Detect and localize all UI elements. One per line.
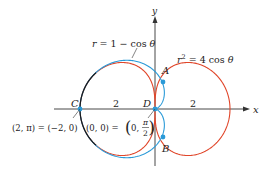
- c-coordinates: (2, π) = (−2, 0): [12, 123, 78, 133]
- label-a: A: [161, 65, 169, 76]
- d-leader-line: [148, 109, 155, 118]
- label-d: D: [142, 98, 151, 109]
- point-b: [161, 135, 166, 140]
- x-axis-label: x: [253, 104, 259, 115]
- x-axis-arrow-icon: [243, 107, 250, 112]
- label-c: C: [71, 98, 79, 109]
- d-two: 2: [143, 129, 148, 138]
- cardioid-equation: r = 1 − cos θ: [92, 38, 156, 49]
- y-axis-label: y: [151, 6, 158, 16]
- point-a: [161, 80, 166, 85]
- tick-label-left: 2: [113, 98, 119, 109]
- tick-label-right: 2: [190, 98, 196, 109]
- d-coordinates-left: (0, 0) =: [86, 123, 119, 133]
- cardioid-leader-line: [132, 48, 137, 58]
- y-axis-arrow-icon: [153, 16, 158, 23]
- d-coordinates-right: 0,: [131, 123, 139, 133]
- d-paren-right: ): [149, 118, 155, 137]
- polar-diagram: x y A B C D 2 2 r = 1 − cos θ r2 = 4 cos…: [0, 0, 273, 176]
- label-b: B: [161, 143, 169, 154]
- lemniscate-equation: r2 = 4 cos θ: [177, 53, 234, 65]
- c-leader-line: [73, 109, 80, 118]
